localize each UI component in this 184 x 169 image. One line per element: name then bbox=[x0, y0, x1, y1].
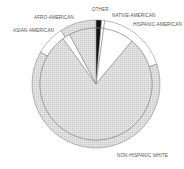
label-other: OTHER bbox=[92, 8, 109, 13]
label-afro-american: AFRO-AMERICAN bbox=[34, 16, 74, 21]
label-native-american: NATIVE-AMERICAN bbox=[112, 14, 156, 19]
label-non-hispanic-white: NON-HISPANIC WHITE bbox=[117, 154, 168, 159]
label-asian-american: ASIAN-AMERICAN bbox=[13, 29, 54, 34]
inner-pie bbox=[40, 28, 152, 140]
label-hispanic-american: HISPANIC-AMERICAN bbox=[133, 23, 182, 28]
